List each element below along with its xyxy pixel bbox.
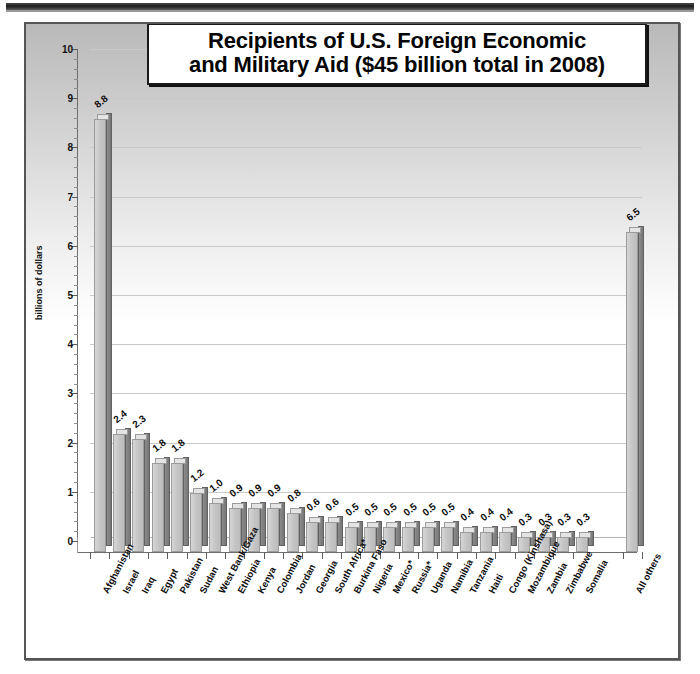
bar-top-face (405, 522, 417, 528)
y-axis-tick-label: 10 (62, 44, 73, 55)
bar-front-face (113, 434, 125, 552)
x-axis-tick (495, 552, 496, 559)
y-axis-minor-tick (74, 266, 78, 267)
y-axis-minor-tick (74, 157, 78, 158)
x-axis-tick (515, 552, 516, 559)
bar-front-face (132, 439, 144, 552)
bar-top-face (579, 532, 591, 538)
bar-value-label: 0.4 (459, 506, 477, 523)
bar-top-face (463, 527, 475, 533)
bar-value-label: 1.2 (188, 467, 206, 484)
y-axis-minor-tick (74, 384, 78, 385)
bar-side-face (106, 113, 112, 546)
bar (480, 532, 492, 552)
x-axis-tick (642, 552, 643, 559)
y-axis-minor-tick (74, 354, 78, 355)
x-axis-tick (322, 552, 323, 559)
bar-front-face (325, 522, 337, 552)
bar-top-face (367, 522, 379, 528)
bar-top-face (386, 522, 398, 528)
y-axis-tick-label: 6 (67, 240, 73, 251)
bar-top-face (212, 498, 224, 504)
y-axis-minor-tick (74, 108, 78, 109)
y-axis-minor-tick (74, 216, 78, 217)
bar-side-face (164, 457, 170, 546)
bar-value-label: 0.6 (324, 496, 342, 513)
bar-value-label: 0.5 (420, 501, 438, 518)
bar-top-face (232, 503, 244, 509)
bar-side-face (144, 433, 150, 546)
x-axis-tick (476, 552, 477, 559)
x-axis-tick (437, 552, 438, 559)
bar-front-face (460, 532, 472, 552)
bar-front-face (499, 532, 511, 552)
bar-value-label: 2.3 (131, 413, 149, 430)
x-axis-category-label: Israel (120, 568, 141, 595)
bar-value-label: 0.4 (497, 506, 515, 523)
x-axis-tick (90, 552, 91, 559)
y-axis-tick-label: 9 (67, 93, 73, 104)
y-axis-minor-tick (74, 138, 78, 139)
y-axis-minor-tick (74, 462, 78, 463)
y-axis-minor-tick (74, 256, 78, 257)
x-axis-category-labels: AfghanistanIsraelIraqEgyptPakistanSudanW… (90, 590, 650, 658)
bar-top-face (629, 227, 641, 233)
bar-value-label: 1.8 (150, 437, 168, 454)
y-axis-minor-tick (74, 403, 78, 404)
x-axis-tick (148, 552, 149, 559)
x-axis-tick (187, 552, 188, 559)
y-axis-tick-label: 7 (67, 191, 73, 202)
bar-value-label: 0.9 (227, 482, 245, 499)
bar-top-face (560, 532, 572, 538)
y-axis-minor-tick (74, 177, 78, 178)
bar (132, 439, 144, 552)
bar-side-face (202, 487, 208, 546)
bar (209, 503, 221, 552)
bar-value-label: 0.3 (517, 511, 535, 528)
y-axis-minor-tick (74, 452, 78, 453)
bar (441, 527, 453, 552)
y-axis-minor-tick (74, 285, 78, 286)
bar (152, 463, 164, 552)
x-axis-tick (109, 552, 110, 559)
bar-value-label: 0.3 (574, 511, 592, 528)
bar (171, 463, 183, 552)
chart-frame: Recipients of U.S. Foreign Economic and … (24, 22, 680, 660)
bar-value-label: 0.9 (266, 482, 284, 499)
x-axis-tick (418, 552, 419, 559)
bar-front-face (422, 527, 434, 552)
x-axis-tick (623, 552, 624, 559)
y-axis-minor-tick (74, 167, 78, 168)
bar-top-face (521, 532, 533, 538)
x-axis-category-label: Haiti (486, 572, 505, 595)
x-axis-tick (457, 552, 458, 559)
bar-value-label: 0.5 (381, 501, 399, 518)
top-scan-rule (6, 3, 694, 10)
bar-value-label: 1.8 (169, 437, 187, 454)
bar-top-face (135, 434, 147, 440)
x-axis-tick (225, 552, 226, 559)
y-axis-tick-label: 0 (67, 536, 73, 547)
y-axis-minor-tick (74, 226, 78, 227)
y-axis-minor-tick (74, 69, 78, 70)
y-axis-minor-tick (74, 275, 78, 276)
bar-front-face (480, 532, 492, 552)
bar (422, 527, 434, 552)
y-axis-tick-labels: 012345678910 (43, 44, 73, 569)
y-axis-minor-tick (74, 502, 78, 503)
chart-frame-inner: Recipients of U.S. Foreign Economic and … (26, 24, 678, 658)
y-axis-minor-tick (74, 187, 78, 188)
bar-value-label: 0.5 (343, 501, 361, 518)
bar-top-face (444, 522, 456, 528)
y-axis-minor-tick (74, 315, 78, 316)
bar (190, 493, 202, 552)
bar (113, 434, 125, 552)
bar-top-face (309, 517, 321, 523)
x-axis-tick (167, 552, 168, 559)
bar-value-label: 0.5 (439, 501, 457, 518)
bar-value-label: 2.4 (111, 408, 129, 425)
bar-value-label: 0.5 (362, 501, 380, 518)
bar-front-face (171, 463, 183, 552)
bar-top-face (348, 522, 360, 528)
bar-top-face (425, 522, 437, 528)
